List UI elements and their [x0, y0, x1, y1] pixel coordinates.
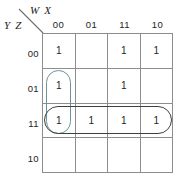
kmap-cell: 1: [141, 104, 174, 139]
kmap-cell: 1: [76, 104, 109, 139]
kmap-cell: 1: [108, 34, 141, 69]
kmap-cell: [108, 138, 141, 173]
kmap-cell: 1: [141, 34, 174, 69]
kmap-cell: [76, 34, 109, 69]
kmap-cell: 1: [108, 69, 141, 104]
row-header-3: 10: [8, 153, 39, 164]
kmap-grid: 1 1 1 1 1 1 1 1 1: [42, 33, 173, 173]
column-header-3: 10: [141, 19, 174, 30]
kmap-cell: 1: [108, 104, 141, 139]
kmap-cell: [43, 138, 76, 173]
row-header-2: 11: [8, 118, 39, 129]
column-header-1: 01: [75, 19, 108, 30]
kmap-cell: [141, 69, 174, 104]
kmap-cell: 1: [43, 34, 76, 69]
row-header-1: 01: [8, 83, 39, 94]
kmap-cell: [76, 69, 109, 104]
kmap-cell: 1: [43, 69, 76, 104]
row-header-0: 00: [8, 48, 39, 59]
karnaugh-map: W X Y Z 00 01 11 10 00 01 11 10 1 1 1 1 …: [0, 0, 181, 183]
kmap-cell: [76, 138, 109, 173]
column-header-0: 00: [42, 19, 75, 30]
column-header-2: 11: [108, 19, 141, 30]
corner-diagonal-icon: [18, 8, 44, 34]
kmap-cell: 1: [43, 104, 76, 139]
kmap-cell: [141, 138, 174, 173]
